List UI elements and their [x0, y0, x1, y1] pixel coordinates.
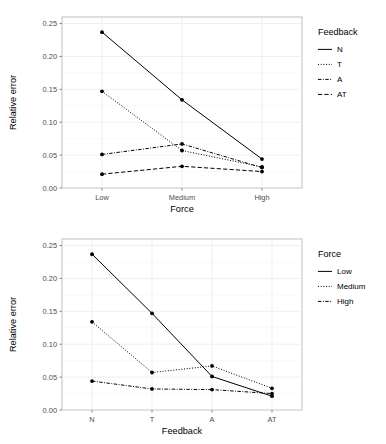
- svg-text:A: A: [210, 415, 215, 424]
- line-chart-by-feedback: 0.000.050.100.150.200.25NTAATFeedbackRel…: [0, 222, 386, 444]
- svg-text:Medium: Medium: [337, 282, 366, 291]
- svg-text:High: High: [254, 193, 269, 202]
- svg-text:0.15: 0.15: [43, 85, 57, 94]
- chart-panel-feedback: 0.000.050.100.150.200.25NTAATFeedbackRel…: [0, 222, 386, 444]
- svg-text:AT: AT: [268, 415, 277, 424]
- svg-text:0.00: 0.00: [43, 184, 57, 193]
- svg-text:T: T: [150, 415, 155, 424]
- svg-text:Force: Force: [170, 204, 194, 214]
- svg-text:0.05: 0.05: [43, 373, 57, 382]
- svg-text:Low: Low: [95, 193, 109, 202]
- svg-text:Medium: Medium: [169, 193, 195, 202]
- chart-panel-force: 0.000.050.100.150.200.25LowMediumHighFor…: [0, 0, 386, 222]
- line-chart-by-force: 0.000.050.100.150.200.25LowMediumHighFor…: [0, 0, 386, 222]
- svg-text:Feedback: Feedback: [162, 426, 203, 436]
- svg-text:N: N: [337, 45, 343, 54]
- svg-text:Low: Low: [337, 267, 352, 276]
- svg-text:0.10: 0.10: [43, 340, 57, 349]
- svg-text:0.15: 0.15: [43, 307, 57, 316]
- svg-text:0.20: 0.20: [43, 52, 57, 61]
- svg-text:T: T: [337, 60, 342, 69]
- svg-text:Relative error: Relative error: [8, 297, 18, 352]
- svg-text:0.20: 0.20: [43, 274, 57, 283]
- svg-text:Force: Force: [318, 249, 341, 259]
- figure-container: 0.000.050.100.150.200.25LowMediumHighFor…: [0, 0, 386, 444]
- svg-text:0.25: 0.25: [43, 241, 57, 250]
- svg-text:0.25: 0.25: [43, 19, 57, 28]
- svg-text:AT: AT: [337, 90, 347, 99]
- svg-text:A: A: [337, 75, 343, 84]
- svg-text:Feedback: Feedback: [318, 27, 358, 37]
- svg-text:N: N: [89, 415, 94, 424]
- svg-text:0.00: 0.00: [43, 406, 57, 415]
- svg-text:0.05: 0.05: [43, 151, 57, 160]
- svg-text:0.10: 0.10: [43, 118, 57, 127]
- svg-text:High: High: [337, 297, 353, 306]
- svg-text:Relative error: Relative error: [8, 75, 18, 130]
